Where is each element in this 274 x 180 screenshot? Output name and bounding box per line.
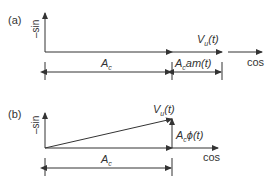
dim-acam-label-a: Acam(t) [175, 58, 212, 71]
cos-axis-label-a: cos [247, 57, 264, 68]
panel-a-label: (a) [8, 14, 21, 26]
resultant-vector-b [45, 119, 172, 148]
phasor-diagram [0, 0, 274, 180]
phase-label-b: Acϕ(t) [176, 130, 203, 143]
dim-ac-label-a: Ac [101, 58, 112, 71]
panel-b-label: (b) [8, 108, 21, 120]
panel-a [45, 13, 262, 80]
sin-axis-label-b: –sin [30, 116, 41, 134]
panel-b [45, 113, 218, 176]
vector-label-a: Vu(t) [197, 34, 219, 47]
dim-ac-label-b: Ac [101, 154, 112, 167]
sin-axis-label-a: –sin [30, 20, 41, 38]
cos-axis-label-b: cos [203, 152, 220, 163]
vector-label-b: Vu(t) [153, 104, 175, 117]
